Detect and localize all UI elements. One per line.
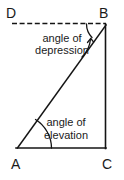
angle-of-depression-label-line1: angle of [42, 32, 82, 44]
geometry-diagram: D B A C angle of depression angle of ele… [0, 0, 124, 180]
angle-of-elevation-label-line2: elevation [44, 129, 88, 141]
angle-of-depression-arc [87, 24, 93, 38]
vertex-label-C: C [102, 156, 112, 172]
vertex-label-D: D [6, 5, 16, 21]
angle-of-elevation-label-line1: angle of [46, 116, 86, 128]
vertex-label-B: B [99, 5, 108, 21]
diagram-canvas: D B A C angle of depression angle of ele… [0, 0, 124, 180]
angle-of-depression-label-line2: depression [35, 44, 89, 56]
vertex-label-A: A [11, 156, 21, 172]
